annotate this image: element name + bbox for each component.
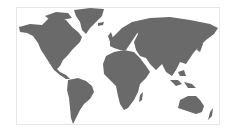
greenland	[74, 8, 104, 34]
north-america	[19, 17, 82, 79]
iceland	[98, 22, 104, 26]
madagascar	[139, 92, 143, 102]
africa	[103, 50, 150, 110]
new-zealand	[208, 108, 213, 120]
world-map	[0, 0, 231, 136]
arctic-islands	[45, 12, 72, 20]
south-america	[67, 78, 94, 124]
australia	[178, 96, 204, 114]
